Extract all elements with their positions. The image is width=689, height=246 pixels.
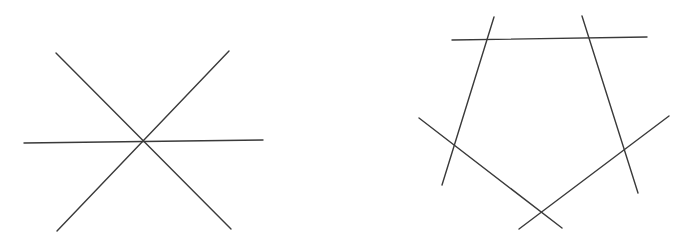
- pentagon-lines-line-3: [582, 16, 638, 193]
- line-diagram: [0, 0, 689, 246]
- pentagon-lines-line-2: [442, 17, 494, 185]
- concurrent-lines-figure: [24, 51, 263, 231]
- pentagon-lines-line-5: [519, 116, 669, 229]
- pentagon-lines-line-4: [419, 118, 562, 228]
- pentagon-lines-figure: [419, 16, 669, 229]
- diagram-canvas: [0, 0, 689, 246]
- pentagon-lines-line-1: [452, 37, 647, 40]
